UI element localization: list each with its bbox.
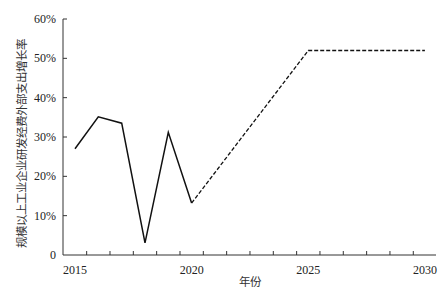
y-tick-label: 20% <box>34 169 56 183</box>
data-series <box>75 51 425 243</box>
y-tick-label: 50% <box>34 51 56 65</box>
y-tick-label: 10% <box>34 209 56 223</box>
axes <box>63 19 436 255</box>
y-axis-title: 规模以上工业企业研发经费外部支出增长率 <box>15 39 29 248</box>
y-tick-label: 60% <box>34 12 56 26</box>
y-tick-label: 0 <box>50 248 56 262</box>
series-actual-line <box>75 117 192 243</box>
x-axis-title: 年份 <box>239 275 262 289</box>
y-axis-tick-labels: 010%20%30%40%50%60% <box>34 12 56 262</box>
line-chart: 010%20%30%40%50%60% 2015202020252030 年份 … <box>0 0 448 296</box>
y-tick-label: 40% <box>34 91 56 105</box>
x-tick-label: 2030 <box>413 263 437 277</box>
x-tick-label: 2025 <box>296 263 320 277</box>
x-tick-label: 2020 <box>180 263 204 277</box>
x-tick-label: 2015 <box>63 263 87 277</box>
series-projected-line <box>192 51 425 204</box>
y-tick-label: 30% <box>34 130 56 144</box>
